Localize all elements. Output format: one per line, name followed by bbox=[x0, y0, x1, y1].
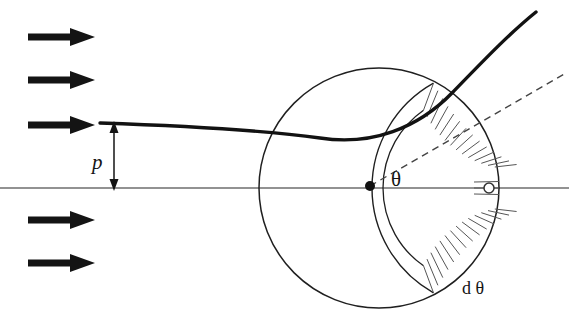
beam-arrow bbox=[28, 28, 95, 46]
scattering-angle-label: θ bbox=[391, 167, 401, 191]
beam-arrow bbox=[28, 71, 95, 89]
impact-parameter-arrow bbox=[110, 121, 119, 191]
incoming-beam-arrows bbox=[28, 28, 95, 272]
beam-arrow bbox=[28, 211, 95, 229]
particle-trajectory-curve bbox=[100, 12, 536, 140]
angle-element-label: d θ bbox=[462, 278, 484, 298]
impact-arrow-head-down bbox=[110, 179, 119, 191]
detector-target-marker bbox=[484, 183, 494, 193]
beam-arrow bbox=[28, 116, 95, 134]
scattering-diagram-canvas: p θ d θ bbox=[0, 0, 569, 333]
beam-arrow bbox=[28, 254, 95, 272]
scattering-center-dot bbox=[365, 181, 375, 191]
impact-parameter-label: p bbox=[90, 150, 103, 174]
scattering-diagram-figure: p θ d θ bbox=[0, 0, 569, 333]
